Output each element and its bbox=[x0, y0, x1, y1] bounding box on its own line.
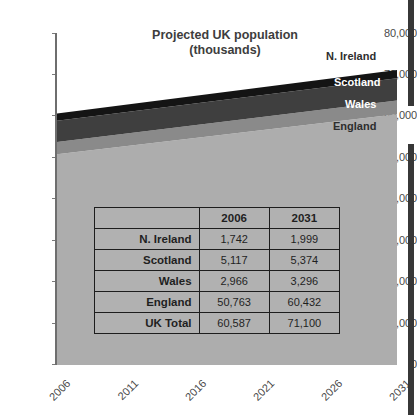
table-cell-n-ireland-2031: 1,999 bbox=[269, 229, 339, 250]
right-edge-bar-bottom bbox=[408, 144, 414, 415]
table-row: UK Total 60,587 71,100 bbox=[95, 313, 340, 334]
right-edge-bar-top bbox=[408, 0, 414, 106]
x-tick-label-2016: 2016 bbox=[167, 377, 208, 415]
table-cell-n-ireland-2006: 1,742 bbox=[199, 229, 269, 250]
table-row-label-uk-total: UK Total bbox=[95, 313, 200, 334]
x-tick-label-2031: 2031 bbox=[371, 377, 412, 415]
series-label-wales: Wales bbox=[345, 98, 376, 110]
table-cell-wales-2006: 2,966 bbox=[199, 271, 269, 292]
table-cell-uk-total-2006: 60,587 bbox=[199, 313, 269, 334]
table-cell-uk-total-2031: 71,100 bbox=[269, 313, 339, 334]
x-tick-label-2021: 2021 bbox=[235, 377, 276, 415]
chart-title-line2: (thousands) bbox=[120, 43, 330, 58]
x-tick-label-2011: 2011 bbox=[99, 377, 140, 415]
table-col-header-2031: 2031 bbox=[269, 208, 339, 229]
table-cell-wales-2031: 3,296 bbox=[269, 271, 339, 292]
table-header-row: 2006 2031 bbox=[95, 208, 340, 229]
table-col-header-2006: 2006 bbox=[199, 208, 269, 229]
chart-title-line1: Projected UK population bbox=[120, 28, 330, 43]
table-row-label-n-ireland: N. Ireland bbox=[95, 229, 200, 250]
table-cell-scotland-2006: 5,117 bbox=[199, 250, 269, 271]
table-row: England 50,763 60,432 bbox=[95, 292, 340, 313]
chart-title: Projected UK population (thousands) bbox=[120, 28, 330, 58]
table-row-label-scotland: Scotland bbox=[95, 250, 200, 271]
table-row: Wales 2,966 3,296 bbox=[95, 271, 340, 292]
x-tick-label-2026: 2026 bbox=[303, 377, 344, 415]
chart-figure: 80,000 70,000 60,000 50,000 40,000 30,00… bbox=[0, 0, 417, 415]
table-corner-cell bbox=[95, 208, 200, 229]
series-label-scotland: Scotland bbox=[334, 76, 380, 88]
x-tick-label-2006: 2006 bbox=[31, 377, 72, 415]
table-row: N. Ireland 1,742 1,999 bbox=[95, 229, 340, 250]
table-cell-scotland-2031: 5,374 bbox=[269, 250, 339, 271]
table-row-label-wales: Wales bbox=[95, 271, 200, 292]
series-label-england: England bbox=[333, 120, 376, 132]
table-cell-england-2031: 60,432 bbox=[269, 292, 339, 313]
population-data-table: 2006 2031 N. Ireland 1,742 1,999 Scotlan… bbox=[94, 207, 340, 334]
data-table-container: 2006 2031 N. Ireland 1,742 1,999 Scotlan… bbox=[94, 207, 340, 334]
table-row-label-england: England bbox=[95, 292, 200, 313]
table-cell-england-2006: 50,763 bbox=[199, 292, 269, 313]
series-label-n-ireland: N. Ireland bbox=[326, 50, 376, 62]
table-row: Scotland 5,117 5,374 bbox=[95, 250, 340, 271]
